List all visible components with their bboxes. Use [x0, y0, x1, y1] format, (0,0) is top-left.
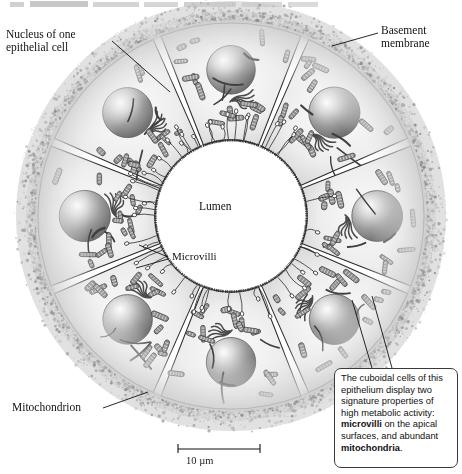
microvillus-tip — [315, 230, 320, 234]
microvillus-tip — [221, 124, 225, 129]
callout-bold-microvilli: microvilli — [341, 419, 382, 429]
microvillus-tip — [208, 119, 212, 124]
scale-bar — [178, 444, 260, 453]
callout-line-4: high metabolic activity: — [341, 408, 435, 418]
microvillus-tip — [123, 195, 128, 199]
microvillus-tip — [332, 194, 337, 198]
callout-line-6: surfaces, and abundant — [341, 431, 438, 441]
microvillus-tip — [234, 109, 238, 114]
callout-box: The cuboidal cells of this epithelium di… — [334, 368, 458, 468]
scale-bar-label: 10 µm — [186, 455, 213, 466]
microvillus-tip — [240, 311, 244, 316]
label-basement-membrane: Basement membrane — [381, 24, 430, 50]
lumen-space — [157, 142, 306, 291]
callout-line-3: signature properties of — [341, 396, 434, 406]
callout-bold-mitochondria: mitochondria — [341, 443, 400, 453]
microvillus-tip — [245, 115, 249, 120]
microvillus-tip — [132, 213, 137, 216]
callout-line-1: The cuboidal cells of this — [341, 373, 443, 383]
label-mitochondrion: Mitochondrion — [12, 401, 81, 414]
label-microvilli: Microvilli — [172, 250, 217, 263]
microvillus-tip — [133, 206, 138, 210]
callout-line-2: epithelium display two — [341, 385, 432, 395]
callout-line-5: on the apical — [382, 419, 437, 429]
callout-line-7: . — [400, 443, 403, 453]
label-lumen: Lumen — [199, 200, 232, 213]
microvillus-tip — [227, 307, 230, 312]
label-nucleus: Nucleus of one epithelial cell — [6, 28, 76, 54]
microvillus-tip — [226, 112, 230, 117]
